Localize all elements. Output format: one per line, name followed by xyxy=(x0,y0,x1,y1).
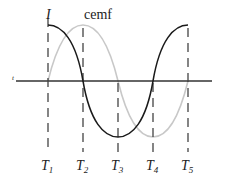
marker-label-t1: T1 xyxy=(41,158,53,175)
marker-label-t5: T5 xyxy=(181,158,194,175)
marker-label-t4: T4 xyxy=(146,158,159,175)
marker-label-t3: T3 xyxy=(111,158,124,175)
cemf-current-diagram: t I cemf T1 T2 T3 T4 T5 xyxy=(0,0,225,177)
current-label: I xyxy=(45,7,52,22)
time-axis-label: t xyxy=(12,74,15,82)
marker-label-t2: T2 xyxy=(76,158,89,175)
time-marker-labels: T1 T2 T3 T4 T5 xyxy=(41,158,194,175)
cemf-label: cemf xyxy=(84,7,112,22)
